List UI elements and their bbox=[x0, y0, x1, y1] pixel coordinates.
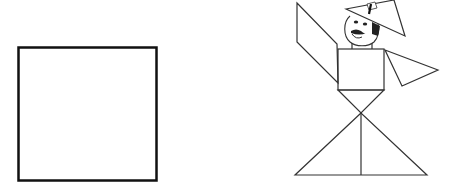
head bbox=[345, 0, 405, 46]
left-arm-parallelogram bbox=[297, 3, 338, 83]
right-arm-triangle bbox=[385, 50, 438, 86]
body-square bbox=[338, 49, 384, 90]
square-shape bbox=[19, 48, 157, 181]
left-eye-icon bbox=[354, 20, 358, 23]
figure-canvas bbox=[0, 0, 455, 191]
waist-triangle bbox=[338, 90, 384, 113]
right-eye-icon bbox=[363, 22, 367, 25]
